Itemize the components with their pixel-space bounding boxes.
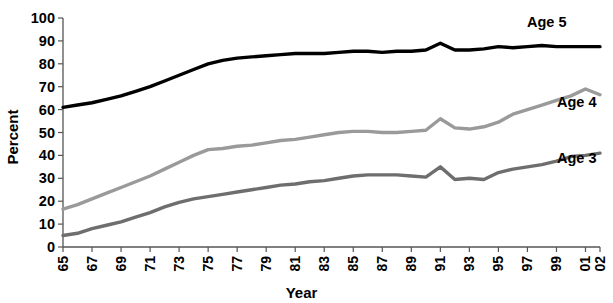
y-tick-label: 60 (39, 102, 55, 118)
x-tick-label: 71 (142, 256, 158, 272)
series-line-age-4 (63, 89, 600, 209)
x-tick-label: 73 (171, 256, 187, 272)
y-tick-label: 70 (39, 79, 55, 95)
x-tick-label: 79 (258, 256, 274, 272)
y-tick-label: 90 (39, 33, 55, 49)
y-tick-label: 0 (47, 239, 55, 255)
chart-canvas: 0102030405060708090100656769717375777981… (0, 0, 613, 303)
series-label-age-5: Age 5 (527, 14, 567, 30)
x-tick-label: 67 (84, 256, 100, 272)
y-tick-label: 100 (31, 10, 55, 26)
x-tick-label: 93 (461, 256, 477, 272)
x-tick-label: 69 (113, 256, 129, 272)
x-tick-label: 87 (374, 256, 390, 272)
x-tick-label: 65 (55, 256, 71, 272)
x-tick-label: 85 (345, 256, 361, 272)
series-label-age-3: Age 3 (557, 150, 597, 166)
series-label-age-4: Age 4 (557, 94, 597, 110)
x-tick-label: 91 (432, 256, 448, 272)
y-tick-label: 30 (39, 170, 55, 186)
x-tick-label: 83 (316, 256, 332, 272)
y-tick-label: 10 (39, 216, 55, 232)
x-tick-label: 89 (403, 256, 419, 272)
x-tick-label: 95 (490, 256, 506, 272)
series-line-age-3 (63, 153, 600, 235)
x-tick-label: 77 (229, 256, 245, 272)
x-tick-label: 81 (287, 256, 303, 272)
series-line-age-5 (63, 43, 600, 107)
x-tick-label: 75 (200, 256, 216, 272)
y-tick-label: 20 (39, 193, 55, 209)
y-axis-title: Percent (4, 109, 21, 164)
x-tick-label: 02 (592, 256, 608, 272)
y-tick-label: 40 (39, 147, 55, 163)
y-tick-label: 50 (39, 125, 55, 141)
x-tick-label: 99 (548, 256, 564, 272)
x-tick-label: 97 (519, 256, 535, 272)
x-axis-title: Year (286, 284, 318, 301)
y-tick-label: 80 (39, 56, 55, 72)
line-chart: 0102030405060708090100656769717375777981… (0, 0, 613, 303)
